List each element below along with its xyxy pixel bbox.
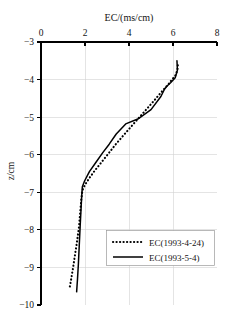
y-tick-label: −3 bbox=[24, 37, 34, 47]
x-tick-label: 2 bbox=[83, 28, 88, 38]
x-tick-label: 6 bbox=[171, 28, 176, 38]
chart-background bbox=[0, 0, 239, 332]
legend-label-ec-1993-5-4: EC(1993-5-4) bbox=[149, 253, 200, 263]
chart-title: EC/(ms/cm) bbox=[105, 12, 154, 24]
y-tick-label: −7 bbox=[24, 188, 34, 198]
ec-depth-profile-chart: 02468 −3−4−5−6−7−8−9−10 EC/(ms/cm) z/cm … bbox=[0, 0, 239, 332]
x-tick-label: 0 bbox=[39, 28, 44, 38]
y-axis-label: z/cm bbox=[6, 161, 16, 180]
y-tick-label: −4 bbox=[24, 75, 34, 85]
y-tick-label: −8 bbox=[24, 225, 34, 235]
y-tick-label: −10 bbox=[19, 300, 34, 310]
x-tick-label: 4 bbox=[127, 28, 132, 38]
y-tick-label: −5 bbox=[24, 113, 34, 123]
chart-container: 02468 −3−4−5−6−7−8−9−10 EC/(ms/cm) z/cm … bbox=[0, 0, 239, 332]
x-tick-label: 8 bbox=[215, 28, 220, 38]
y-tick-label: −6 bbox=[24, 150, 34, 160]
legend[interactable]: EC(1993-4-24) EC(1993-5-4) bbox=[107, 231, 215, 266]
legend-label-ec-1993-4-24: EC(1993-4-24) bbox=[149, 238, 204, 248]
y-tick-label: −9 bbox=[24, 263, 34, 273]
